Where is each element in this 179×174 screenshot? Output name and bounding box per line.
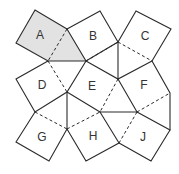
label-a: A [36, 28, 44, 42]
label-j: J [140, 130, 146, 144]
region-a-shading [16, 10, 86, 61]
label-b: B [89, 29, 97, 43]
label-f: F [140, 78, 147, 92]
label-d: D [38, 78, 47, 92]
label-g: G [37, 130, 46, 144]
label-h: H [89, 129, 98, 143]
label-e: E [88, 79, 96, 93]
tiling-diagram: A B C D E F G H J [0, 0, 179, 174]
label-c: C [141, 29, 150, 43]
